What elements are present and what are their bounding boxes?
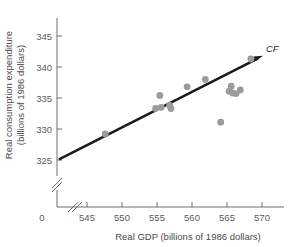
y-tick-label-340: 340 (36, 62, 52, 73)
y-tick-label-330: 330 (36, 124, 52, 135)
chart-canvas: 345 340 335 330 325 545 550 555 560 565 … (0, 0, 290, 247)
x-tick-label-550: 550 (114, 212, 130, 223)
x-tick-label-555: 555 (149, 212, 165, 223)
x-tick-label-565: 565 (219, 212, 235, 223)
data-point (247, 56, 254, 63)
y-tick-label-335: 335 (36, 93, 52, 104)
data-point (237, 87, 244, 94)
consumption-function-chart: 345 340 335 330 325 545 550 555 560 565 … (0, 0, 290, 247)
data-point (168, 105, 175, 112)
x-axis-title: Real GDP (billions of 1986 dollars) (115, 231, 261, 242)
data-point (156, 92, 163, 99)
data-point (184, 83, 191, 90)
x-tick-label-560: 560 (184, 212, 200, 223)
x-tick-label-570: 570 (254, 212, 270, 223)
data-point (228, 83, 235, 90)
y-tick-label-325: 325 (36, 155, 52, 166)
data-point (102, 131, 109, 138)
origin-label: 0 (39, 212, 44, 223)
y-axis-title-line2: (billions of 1986 dollars) (15, 45, 26, 145)
y-tick-label-345: 345 (36, 31, 52, 42)
data-point (158, 104, 165, 111)
y-axis-title-line1: Real consumption expenditure (3, 31, 14, 159)
x-tick-label-545: 545 (79, 212, 95, 223)
data-point (202, 76, 209, 83)
data-point (217, 119, 224, 126)
data-point (152, 105, 159, 112)
y-tick-marks (57, 36, 62, 160)
y-axis-break-icon (52, 178, 62, 192)
x-tick-marks (87, 202, 262, 207)
series-label-cf: CF (266, 43, 280, 54)
